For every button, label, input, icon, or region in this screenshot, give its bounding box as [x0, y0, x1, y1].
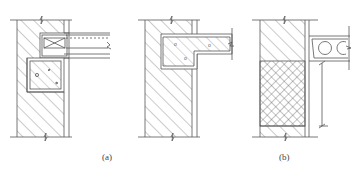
caption-b: (b) [279, 152, 290, 162]
brick-wall-hatch [260, 20, 305, 61]
caption-a: (a) [102, 152, 112, 162]
construction-detail-diagram: o o o [0, 0, 363, 182]
panel-b [252, 16, 351, 141]
svg-text:o: o [184, 55, 187, 61]
ring-beam [30, 61, 61, 89]
svg-text:o: o [208, 42, 211, 48]
hollow-core-circle [319, 42, 332, 55]
panel-a-right: o o o [138, 16, 234, 141]
crosshatch-infill [260, 61, 305, 126]
svg-text:o: o [174, 41, 177, 47]
panel-a-left [10, 16, 111, 141]
